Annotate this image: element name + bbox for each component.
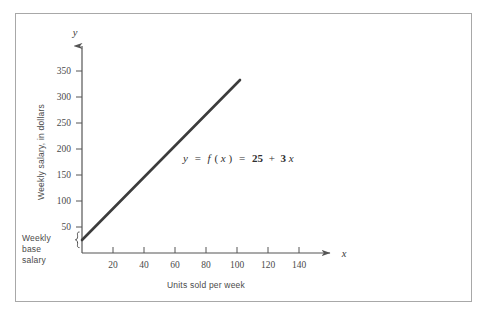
y-tick-label-350: 350 [57,66,72,76]
base-salary-line-2: base [22,244,41,254]
x-axis-variable-label: x [341,248,347,259]
equation-equals-2: = [239,152,245,164]
x-axis-ticks [113,247,299,253]
equation-paren-open: ( [214,152,218,165]
y-tick-label-100: 100 [57,196,72,206]
equation-slope: 3 [281,152,287,164]
base-salary-line-1: Weekly [22,233,51,243]
x-tick-label-140: 140 [292,260,307,270]
equation-x-arg: x [220,152,226,164]
x-tick-label-60: 60 [170,260,180,270]
base-salary-annotation: Weekly base salary [22,232,80,265]
x-tick-label-20: 20 [108,260,118,270]
equation-paren-close: ) [228,152,232,165]
x-tick-label-80: 80 [201,260,211,270]
equation-intercept: 25 [252,152,264,164]
y-tick-label-250: 250 [57,118,72,128]
x-tick-label-120: 120 [261,260,276,270]
x-tick-label-40: 40 [139,260,149,270]
equation-f: f [208,152,213,164]
base-salary-line-3: salary [22,255,46,265]
y-axis-tick-labels: 50 100 150 200 250 300 350 [57,66,72,232]
x-axis-tick-labels: 20 40 60 80 100 120 140 [108,260,306,270]
x-tick-label-100: 100 [230,260,245,270]
axes [82,46,330,253]
equation-x-variable: x [288,152,294,164]
equation-plus: + [269,152,275,164]
y-axis-variable-label: y [72,27,78,38]
line-chart: y x 50 100 150 200 250 300 350 20 40 60 … [0,0,489,310]
y-tick-label-300: 300 [57,92,72,102]
y-axis-title: Weekly salary, in dollars [36,104,46,200]
y-tick-label-150: 150 [57,170,72,180]
y-tick-label-50: 50 [62,222,72,232]
x-axis-title: Units sold per week [167,280,246,290]
equation-label: y = f ( x ) = 25 + 3 x [182,152,294,165]
y-tick-label-200: 200 [57,144,72,154]
y-axis-ticks [76,71,82,227]
equation-equals-1: = [195,152,201,164]
curly-brace-icon [75,232,79,248]
equation-y: y [182,152,188,164]
